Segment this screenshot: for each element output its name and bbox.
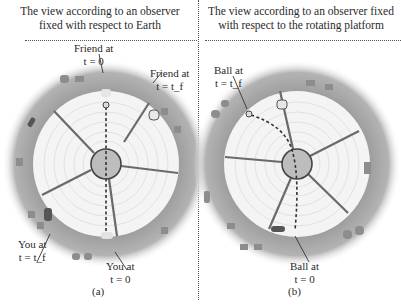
- label-text: You at: [106, 260, 135, 273]
- friend-figure: [277, 100, 287, 109]
- label-text: Friend at: [150, 67, 189, 80]
- panel-b-platform: [193, 60, 401, 268]
- label-text: Friend at: [74, 42, 113, 55]
- label-time: t = 0: [74, 55, 113, 68]
- label-time: t = t_f: [150, 80, 189, 93]
- label-time: t = 0: [106, 273, 135, 286]
- rotating-platform-diagram: [0, 0, 401, 308]
- label-text: Ball at: [290, 260, 319, 273]
- label-ball-at-tf: Ball at t = t_f: [214, 64, 243, 90]
- label-friend-at-tf: Friend at t = t_f: [150, 67, 189, 93]
- panel-b-ball: [246, 111, 252, 117]
- panel-a-ball: [103, 102, 109, 108]
- label-you-at-tf: You at t = t_f: [18, 238, 47, 264]
- friend-at-t0-figure: [101, 89, 111, 97]
- label-friend-at-t0: Friend at t = 0: [74, 42, 113, 68]
- you-figure: [271, 226, 285, 232]
- label-time: t = t_f: [18, 251, 47, 264]
- you-at-t0-figure: [101, 232, 113, 239]
- label-you-at-t0: You at t = 0: [106, 260, 135, 286]
- label-text: You at: [18, 238, 47, 251]
- friend-at-tf-figure: [149, 110, 159, 120]
- label-time: t = t_f: [214, 77, 243, 90]
- you-at-tf-figure: [44, 208, 52, 221]
- panel-a-caption: (a): [92, 285, 104, 297]
- panel-b-caption: (b): [288, 285, 301, 297]
- label-ball-at-t0: Ball at t = 0: [290, 260, 319, 286]
- panel-b-hub: [282, 149, 312, 179]
- label-text: Ball at: [214, 64, 243, 77]
